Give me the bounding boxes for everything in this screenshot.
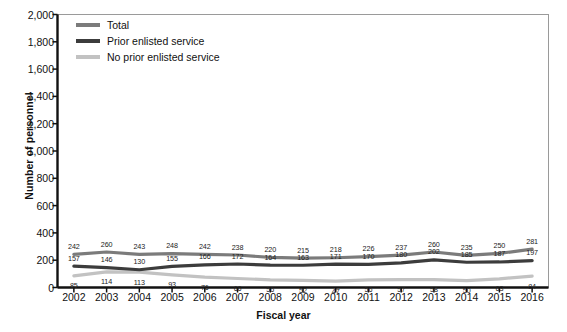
data-point-label: 180 <box>395 250 407 259</box>
data-point-label: 155 <box>166 253 178 262</box>
x-axis-tick-label: 2016 <box>520 291 543 303</box>
x-axis-tick-label: 2013 <box>422 291 445 303</box>
data-point-label: 260 <box>101 239 113 248</box>
data-point-label: 84 <box>528 281 536 290</box>
data-point-label: 242 <box>199 241 211 250</box>
x-axis-tick-label: 2007 <box>226 291 249 303</box>
x-axis-tick-label: 2015 <box>488 291 511 303</box>
x-axis-tick-label: 2005 <box>160 291 183 303</box>
data-point-label: 85 <box>70 281 78 290</box>
x-axis-tick-label: 2009 <box>291 291 314 303</box>
data-point-label: 166 <box>199 252 211 261</box>
data-point-label: 248 <box>166 241 178 250</box>
data-point-label: 187 <box>494 249 506 258</box>
data-point-label: 197 <box>526 248 538 257</box>
data-point-label: 163 <box>297 252 309 261</box>
x-axis-tick-label: 2014 <box>455 291 478 303</box>
data-point-label: 93 <box>168 280 176 289</box>
data-point-label: 146 <box>101 255 113 264</box>
x-axis-tick-label: 2008 <box>259 291 282 303</box>
data-point-label: 157 <box>68 253 80 262</box>
x-axis-tick-label: 2004 <box>128 291 151 303</box>
x-axis-tick-label: 2006 <box>193 291 216 303</box>
line-chart: 02004006008001,0001,2001,4001,6001,8002,… <box>0 0 567 332</box>
data-point-label: 76 <box>201 282 209 291</box>
data-point-label: 130 <box>133 257 145 266</box>
data-point-label: 113 <box>134 277 145 286</box>
data-point-label: 243 <box>133 241 145 250</box>
plot-area <box>0 0 567 332</box>
data-point-label: 281 <box>526 236 538 245</box>
x-axis-tick-label: 2011 <box>357 291 380 303</box>
data-point-label: 171 <box>330 251 342 260</box>
x-axis-tick-label: 2003 <box>95 291 118 303</box>
x-axis-tick-label: 2012 <box>390 291 413 303</box>
x-axis-tick-label: 2002 <box>62 291 85 303</box>
data-point-label: 164 <box>264 252 276 261</box>
data-point-label: 185 <box>461 249 473 258</box>
data-point-label: 172 <box>232 251 244 260</box>
data-point-label: 238 <box>232 242 244 251</box>
data-point-label: 170 <box>363 251 375 260</box>
x-axis-tick-label: 2010 <box>324 291 347 303</box>
data-point-label: 114 <box>101 277 112 286</box>
data-point-label: 202 <box>428 247 440 256</box>
data-point-label: 242 <box>68 241 80 250</box>
